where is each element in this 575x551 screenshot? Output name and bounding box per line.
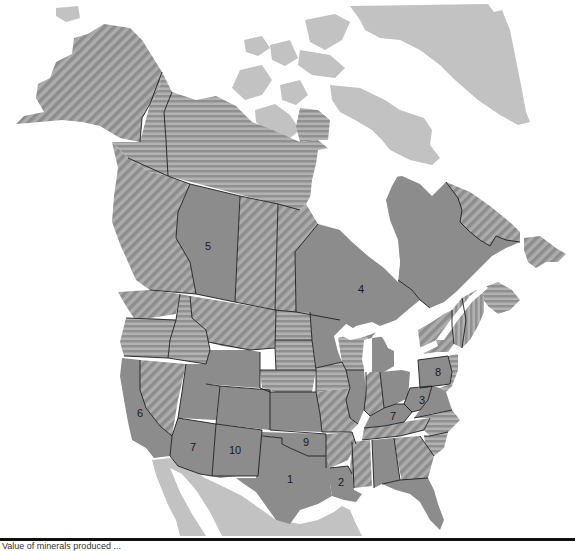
arctic-island-6 (280, 80, 308, 105)
arctic-island-5 (270, 40, 298, 66)
map-caption: Value of minerals produced ... (2, 542, 121, 551)
label-region-8: 8 (435, 366, 441, 378)
wrangel-island (56, 6, 80, 22)
arctic-island-2 (298, 50, 345, 78)
label-region-2: 2 (338, 476, 344, 488)
region-alaska (16, 24, 162, 142)
label-region-7-east: 7 (390, 410, 396, 422)
region-north-dakota (275, 310, 312, 340)
label-region-5: 5 (205, 240, 211, 252)
region-saskatchewan (235, 196, 278, 310)
label-region-1: 1 (287, 473, 293, 485)
label-region-10: 10 (229, 444, 241, 456)
label-region-9: 9 (303, 436, 309, 448)
label-region-3: 3 (419, 394, 425, 406)
arctic-island-4 (244, 36, 270, 56)
region-washington (118, 290, 180, 318)
region-wyoming (206, 350, 260, 388)
label-region-7-west: 7 (190, 441, 196, 453)
label-region-6: 6 (137, 407, 143, 419)
arctic-island-1 (305, 14, 350, 50)
region-newfoundland (524, 236, 566, 268)
region-colorado (216, 386, 270, 430)
region-kansas (270, 392, 322, 432)
arctic-island-3 (232, 65, 272, 100)
region-florida (382, 478, 444, 530)
region-maritimes (482, 282, 520, 314)
region-south-dakota (275, 340, 316, 370)
region-oregon (120, 318, 176, 358)
region-arctic-hatched-island (296, 108, 330, 142)
region-nebraska (260, 370, 316, 392)
label-region-4: 4 (358, 283, 364, 295)
caption-divider (0, 538, 575, 541)
north-america-map: 1 2 3 4 5 6 7 7 8 9 10 (0, 0, 575, 538)
